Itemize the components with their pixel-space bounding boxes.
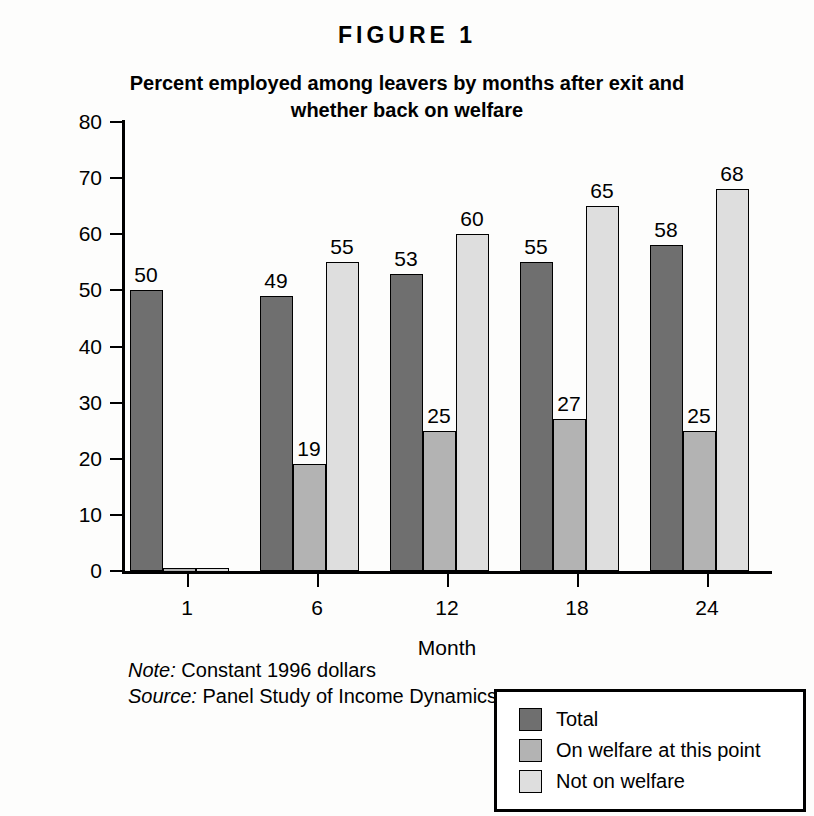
legend-item[interactable]: On welfare at this point: [519, 735, 803, 766]
x-axis-tick: [577, 574, 579, 587]
y-axis-tick: [110, 289, 122, 291]
y-axis-tick: [110, 121, 122, 123]
note-label: Note:: [128, 659, 176, 681]
legend-item-label: Total: [556, 708, 598, 731]
y-axis-tick-label: 20: [58, 448, 102, 469]
x-axis-tick-label: 18: [542, 596, 612, 620]
y-axis-title: Percent: [0, 258, 4, 330]
note-text: Constant 1996 dollars: [176, 659, 376, 681]
figure-notes: Note: Constant 1996 dollars Source: Pane…: [128, 657, 497, 709]
source-line: Source: Panel Study of Income Dynamics: [128, 683, 497, 709]
bar-value-label: 68: [704, 163, 761, 184]
y-axis-tick: [110, 233, 122, 235]
y-axis-tick: [110, 346, 122, 348]
x-axis-tick-label: 1: [152, 596, 222, 620]
legend-swatch-icon: [519, 739, 542, 762]
x-axis-tick: [707, 574, 709, 587]
legend-item[interactable]: Total: [519, 704, 803, 735]
bar-on-welfare-at-this-point-month-18: [553, 419, 586, 571]
y-axis-line: [122, 120, 125, 574]
y-axis-tick: [110, 402, 122, 404]
x-axis-tick-label: 6: [282, 596, 352, 620]
bar-total-month-1: [130, 290, 163, 571]
y-axis-tick: [110, 514, 122, 516]
legend-swatch-icon: [519, 708, 542, 731]
bar-value-label: 65: [574, 180, 631, 201]
bar-not-on-welfare-month-6: [326, 262, 359, 571]
y-axis-tick-label: 80: [58, 111, 102, 132]
chart-legend: TotalOn welfare at this pointNot on welf…: [494, 689, 806, 812]
bar-not-on-welfare-month-12: [456, 234, 489, 571]
legend-item-label: Not on welfare: [556, 770, 685, 793]
x-axis-tick-label: 24: [672, 596, 742, 620]
x-axis-tick: [187, 574, 189, 587]
y-axis-tick: [110, 458, 122, 460]
y-axis-tick-label: 0: [58, 560, 102, 581]
legend-item[interactable]: Not on welfare: [519, 766, 803, 797]
legend-swatch-icon: [519, 770, 542, 793]
bar-value-label: 49: [248, 270, 305, 291]
figure-title: Percent employed among leavers by months…: [107, 70, 707, 124]
x-axis-tick: [447, 574, 449, 587]
bar-total-month-6: [260, 296, 293, 571]
figure-number: FIGURE 1: [0, 22, 814, 49]
legend-item-label: On welfare at this point: [556, 739, 761, 762]
bar-value-label: 50: [118, 264, 175, 285]
bar-value-label: 60: [444, 208, 501, 229]
bar-not-on-welfare-month-1: [196, 568, 229, 571]
bar-value-label: 55: [508, 236, 565, 257]
y-axis-tick-label: 40: [58, 336, 102, 357]
bar-not-on-welfare-month-24: [716, 189, 749, 571]
source-text: Panel Study of Income Dynamics: [197, 685, 497, 707]
x-axis-tick-label: 12: [412, 596, 482, 620]
bar-value-label: 58: [638, 219, 695, 240]
y-axis-tick-label: 10: [58, 504, 102, 525]
y-axis-tick: [110, 570, 122, 572]
bar-on-welfare-at-this-point-month-6: [293, 464, 326, 571]
source-label: Source:: [128, 685, 197, 707]
figure-container: FIGURE 1 Percent employed among leavers …: [0, 0, 814, 816]
bar-on-welfare-at-this-point-month-12: [423, 431, 456, 571]
y-axis-tick-label: 50: [58, 279, 102, 300]
y-axis-tick-label: 30: [58, 392, 102, 413]
bar-not-on-welfare-month-18: [586, 206, 619, 571]
y-axis-tick: [110, 177, 122, 179]
x-axis-tick: [317, 574, 319, 587]
bar-value-label: 55: [314, 236, 371, 257]
bar-on-welfare-at-this-point-month-1: [163, 568, 196, 571]
y-axis-tick-label: 60: [58, 223, 102, 244]
y-axis-tick-label: 70: [58, 167, 102, 188]
note-line: Note: Constant 1996 dollars: [128, 657, 497, 683]
bar-value-label: 53: [378, 248, 435, 269]
bar-on-welfare-at-this-point-month-24: [683, 431, 716, 571]
bar-total-month-18: [520, 262, 553, 571]
